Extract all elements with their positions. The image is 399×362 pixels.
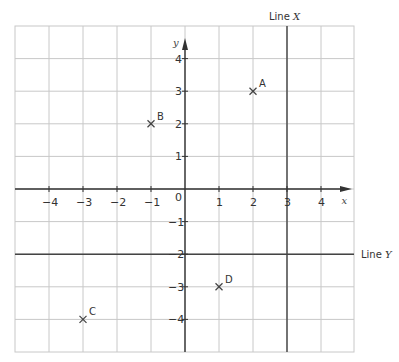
x-tick-label: 4: [318, 196, 325, 209]
special-lines: Line XLine Y: [15, 11, 393, 352]
x-tick-label: −1: [144, 196, 160, 209]
y-tick-label: 1: [175, 150, 182, 163]
point-label: A: [259, 78, 266, 89]
point-c: C: [80, 306, 97, 323]
point-a: A: [250, 78, 267, 95]
y-axis-arrow-icon: [182, 38, 188, 50]
y-tick-label: 4: [175, 53, 182, 66]
y-tick-label: −3: [168, 281, 184, 294]
y-tick-label: −2: [168, 248, 184, 261]
x-tick-label: 1: [216, 196, 223, 209]
x-tick-label: 2: [250, 196, 257, 209]
y-tick-label: −1: [168, 216, 184, 229]
point-label: B: [157, 111, 164, 122]
x-tick-label: −4: [42, 196, 58, 209]
x-tick-label: 3: [284, 196, 291, 209]
y-axis-label: y: [172, 37, 179, 48]
x-axis-arrow-icon: [340, 186, 352, 192]
point-label: D: [225, 274, 233, 285]
axes: xy: [15, 37, 352, 352]
x-tick-label: −2: [110, 196, 126, 209]
point-b: B: [148, 111, 165, 128]
point-d: D: [216, 274, 234, 291]
y-tick-label: −4: [168, 313, 184, 326]
x-tick-label: −3: [76, 196, 92, 209]
x-axis-label: x: [341, 195, 347, 206]
y-tick-label: 2: [175, 118, 182, 131]
origin-label: 0: [175, 191, 182, 204]
line-x-label: Line X: [269, 11, 301, 22]
y-tick-label: 3: [175, 85, 182, 98]
coordinate-grid: Line XLine Y xy −4−3−2−112344321−1−2−3−4…: [0, 0, 399, 362]
line-y-label: Line Y: [361, 249, 393, 260]
point-label: C: [89, 306, 96, 317]
